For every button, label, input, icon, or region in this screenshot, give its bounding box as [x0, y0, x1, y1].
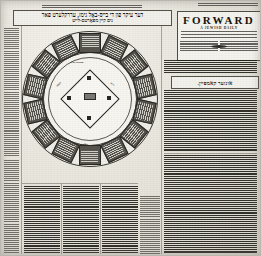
newspaper-page: דער עיקר פון די בייס-באָל גימז, עררקלערט… — [0, 0, 261, 256]
scan-grain-overlay — [0, 0, 261, 256]
